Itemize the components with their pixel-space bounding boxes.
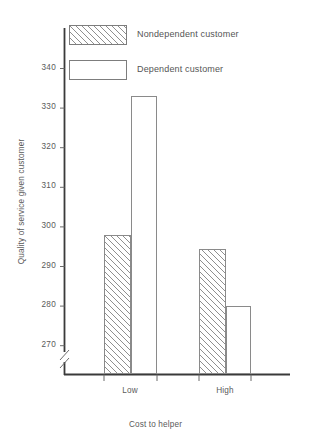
y-tick-label-290: 290 [26,261,56,270]
y-tick-label-330: 330 [26,102,56,111]
y-tick-label-270: 270 [26,340,56,349]
legend-swatch-dependent [69,60,127,80]
x-axis-category-low: Low [100,386,160,395]
y-axis-title: Quality of service given customer [17,102,26,302]
bar-high-dependent[interactable] [226,306,251,374]
y-tick-label-340: 340 [26,63,56,72]
bar-low-dependent[interactable] [131,96,157,374]
y-tick-label-300: 300 [26,221,56,230]
bar-low-nondependent[interactable] [104,235,131,375]
y-tick-label-320: 320 [26,142,56,151]
chart-figure: 340 330 320 310 300 290 280 270 Nondepen… [0,0,311,447]
y-tick-label-280: 280 [26,300,56,309]
x-axis-category-high: High [195,386,255,395]
legend-swatch-nondependent [69,25,127,45]
legend-label-nondependent: Nondependent customer [137,29,239,39]
y-tick-label-310: 310 [26,181,56,190]
bar-high-nondependent[interactable] [199,249,226,375]
legend-label-dependent: Dependent customer [137,64,223,74]
x-axis-title: Cost to helper [0,420,311,429]
